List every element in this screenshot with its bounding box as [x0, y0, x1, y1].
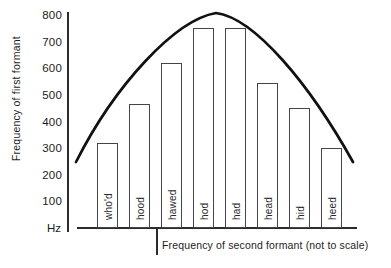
- bar-label: hawed: [166, 190, 177, 220]
- bar-head: head: [257, 83, 278, 228]
- y-tick-label: 100: [24, 194, 62, 208]
- bar-hod: hod: [193, 28, 214, 228]
- vowel-formant-chart: Frequency of first formant 8007006005004…: [0, 0, 391, 268]
- bar-label: heed: [326, 197, 337, 220]
- bar-hood: hood: [129, 104, 150, 228]
- y-tick-label: 500: [24, 88, 62, 102]
- y-axis-line: [67, 12, 69, 232]
- y-tick-label: 600: [24, 61, 62, 75]
- bar-whod: who'd: [97, 143, 118, 228]
- y-tick-label: 300: [24, 141, 62, 155]
- x-axis-line: [77, 227, 357, 229]
- y-tick-label: 200: [24, 168, 62, 182]
- bar-label: who'd: [102, 193, 113, 220]
- y-tick-label: 700: [24, 35, 62, 49]
- bar-hid: hid: [289, 108, 310, 228]
- y-axis-title: Frequency of first formant: [10, 36, 22, 161]
- bar-hawed: hawed: [161, 63, 182, 228]
- bar-had: had: [225, 28, 246, 228]
- bar-label: hid: [294, 206, 305, 220]
- x-axis-tick: [156, 228, 158, 255]
- bar-heed: heed: [321, 148, 342, 228]
- y-tick-label: 400: [24, 115, 62, 129]
- bar-label: hod: [198, 203, 209, 220]
- y-unit-label: Hz: [23, 221, 61, 235]
- envelope-curve-path: [76, 13, 353, 162]
- bar-label: had: [230, 203, 241, 220]
- x-axis-title: Frequency of second formant (not to scal…: [162, 239, 368, 252]
- bar-label: head: [262, 197, 273, 220]
- bar-label: hood: [134, 197, 145, 220]
- y-tick-label: 800: [24, 8, 62, 22]
